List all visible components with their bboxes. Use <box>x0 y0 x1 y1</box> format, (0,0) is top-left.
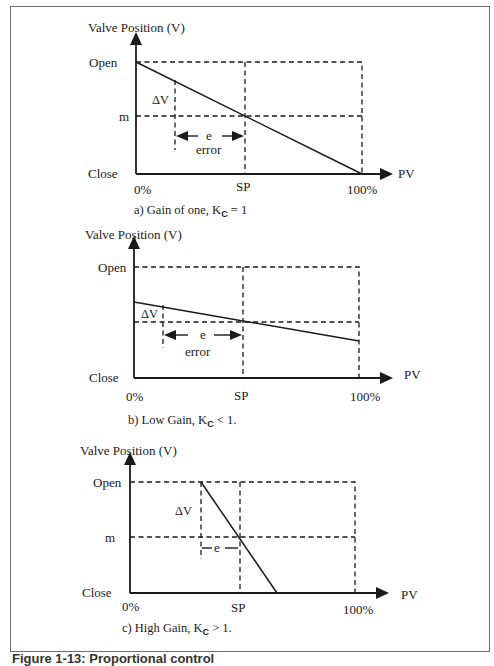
tick-sp: SP <box>234 388 248 403</box>
x-axis-arrow-icon <box>380 372 393 384</box>
arrow-right-icon <box>232 131 244 141</box>
x-axis-arrow-icon <box>376 587 389 599</box>
arrow-left-icon <box>176 131 188 141</box>
controller-response-line <box>201 482 277 593</box>
x-axis-label: PV <box>404 367 421 382</box>
chart-a-caption: a) Gain of one, KC = 1 <box>134 203 247 219</box>
tick-m: m <box>105 530 115 545</box>
error-word: error <box>196 142 222 157</box>
chart-c: Valve Position (V) Open m Close ΔV e 0% … <box>80 443 418 637</box>
tick-100-percent: 100% <box>350 389 381 404</box>
x-axis-arrow-icon <box>380 168 393 180</box>
delta-v-label: ΔV <box>141 307 158 321</box>
y-axis-label: Valve Position (V) <box>88 20 185 35</box>
error-word: error <box>185 344 211 359</box>
tick-close: Close <box>82 585 112 600</box>
tick-open: Open <box>93 475 122 490</box>
tick-m: m <box>119 109 129 124</box>
tick-0-percent: 0% <box>122 599 140 614</box>
tick-100-percent: 100% <box>343 602 374 617</box>
arrow-left-icon <box>164 330 176 340</box>
chart-b: Valve Position (V) Open Close ΔV e error… <box>85 227 421 429</box>
error-symbol: e <box>206 128 212 143</box>
chart-c-caption: c) High Gain, KC > 1. <box>122 621 232 637</box>
tick-sp: SP <box>231 600 245 615</box>
tick-sp: SP <box>236 179 250 194</box>
tick-open: Open <box>89 55 118 70</box>
delta-v-label: ΔV <box>175 504 192 518</box>
x-axis-label: PV <box>401 587 418 602</box>
controller-response-line <box>136 62 362 174</box>
delta-v-label: ΔV <box>152 93 169 107</box>
tick-100-percent: 100% <box>347 182 378 197</box>
chart-a: Valve Position (V) Open m Close ΔV e err… <box>88 20 415 219</box>
error-symbol: e <box>214 540 220 555</box>
tick-close: Close <box>89 370 119 385</box>
x-axis-label: PV <box>398 166 415 181</box>
tick-open: Open <box>98 260 127 275</box>
arrow-right-icon <box>230 330 242 340</box>
tick-close: Close <box>88 166 118 181</box>
tick-0-percent: 0% <box>134 182 152 197</box>
figure-caption: Figure 1-13: Proportional control <box>12 652 214 666</box>
error-symbol: e <box>200 327 206 342</box>
chart-b-caption: b) Low Gain, KC < 1. <box>128 413 236 429</box>
tick-0-percent: 0% <box>126 389 144 404</box>
